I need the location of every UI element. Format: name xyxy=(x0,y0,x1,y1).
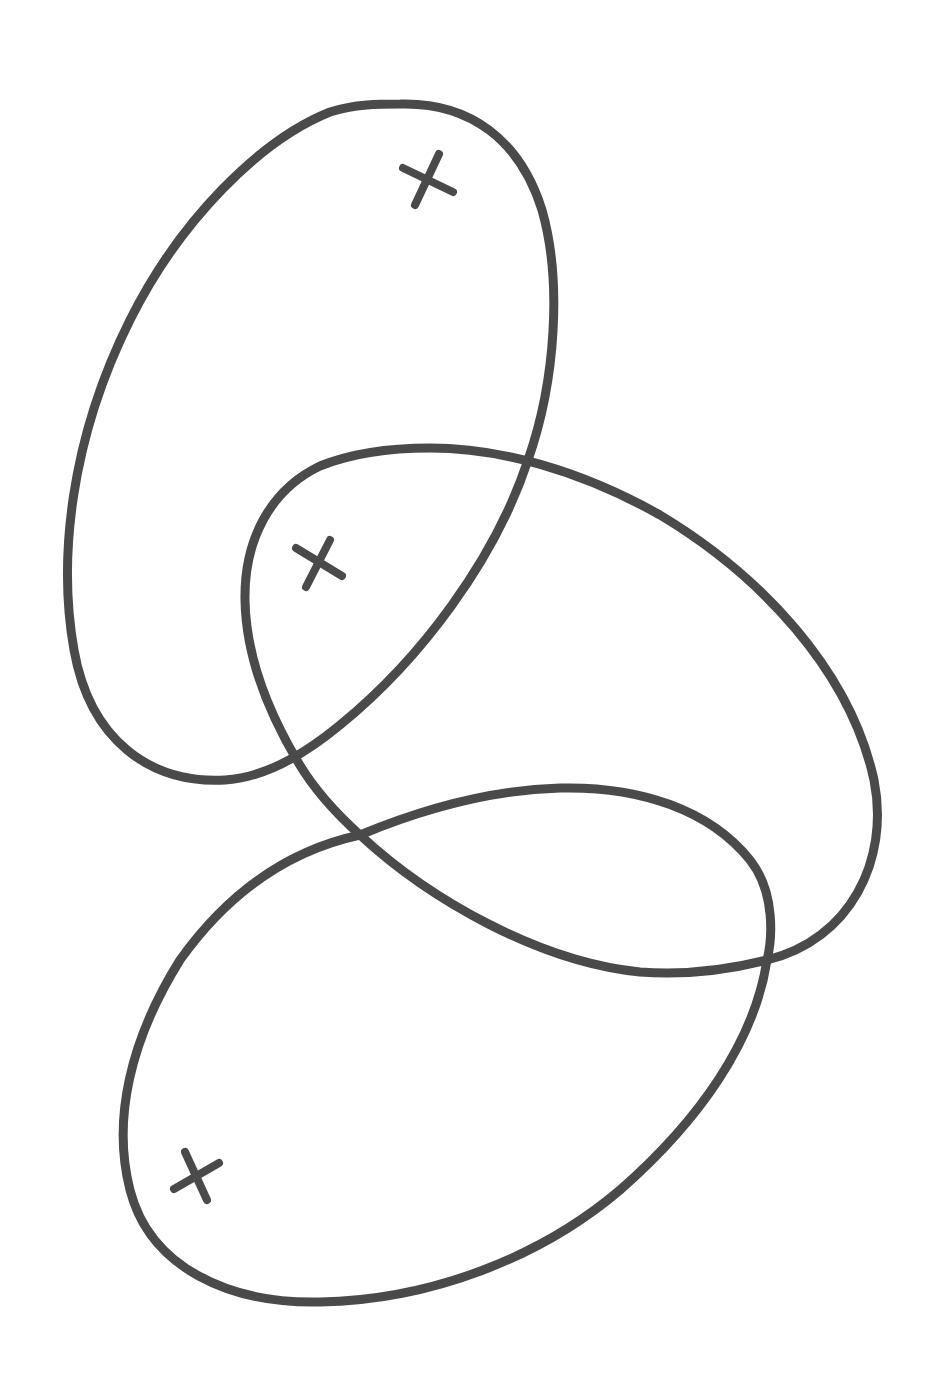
middle-loop-x-marker-icon xyxy=(296,540,342,587)
top-loop-x-marker-icon xyxy=(403,154,453,205)
bottom-loop xyxy=(123,788,770,1302)
middle-loop-outline xyxy=(245,448,877,973)
bottom-loop-outline xyxy=(123,788,770,1302)
three-loop-diagram xyxy=(0,0,942,1374)
middle-loop xyxy=(245,448,877,973)
bottom-loop-x-marker-icon xyxy=(174,1152,219,1200)
top-loop-outline xyxy=(68,104,554,780)
top-loop xyxy=(68,104,554,780)
